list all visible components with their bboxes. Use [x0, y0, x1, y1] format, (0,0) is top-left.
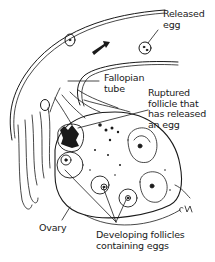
label-released-egg: Released egg: [163, 9, 205, 30]
artist-signature: [180, 206, 192, 212]
developing-follicle-3: [119, 189, 137, 207]
egg-in-tube: [65, 34, 75, 46]
label-ovary: Ovary: [39, 223, 66, 234]
released-egg: [139, 42, 151, 54]
mature-follicle-2: [140, 172, 167, 203]
fimbriae: [18, 88, 130, 209]
label-fallopian-tube: Fallopian tube: [104, 73, 144, 94]
movement-arrow-icon: [92, 41, 110, 55]
ruptured-follicle: [58, 124, 84, 152]
mature-follicle-1: [128, 128, 157, 163]
label-developing-follicles: Developing follicles containing eggs: [96, 230, 185, 251]
developing-follicle-2: [91, 176, 109, 194]
developing-follicle-1: [57, 152, 83, 178]
leader-lines: [62, 30, 158, 222]
ovary-diagram: [0, 0, 215, 262]
label-ruptured-follicle: Ruptured follicle that has released an e…: [148, 88, 206, 130]
